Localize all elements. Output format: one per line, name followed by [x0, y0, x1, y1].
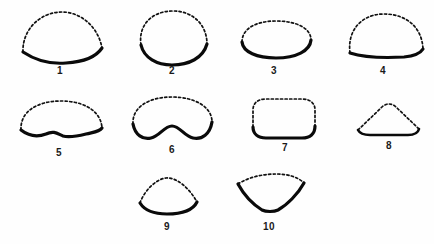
- figure-4: [344, 10, 428, 62]
- figure-2-caption: 2: [146, 66, 198, 76]
- figure-5-solid-edge: [21, 128, 102, 137]
- figure-7-solid-edge: [253, 126, 315, 138]
- figure-9-dashed-edge: [140, 178, 197, 203]
- figure-6: [127, 93, 219, 145]
- figure-7-dashed-edge: [253, 99, 315, 127]
- figure-4-solid-edge: [350, 49, 423, 58]
- figure-10-solid-edge: [238, 183, 304, 212]
- figure-9-caption: 9: [141, 222, 193, 232]
- figure-8-dashed-edge: [358, 104, 419, 130]
- figure-7-caption: 7: [259, 143, 311, 153]
- figure-8: [352, 100, 426, 140]
- figure-6-solid-edge: [133, 122, 212, 138]
- figure-plate: 1 2 3 4 5 6: [0, 0, 434, 244]
- figure-10: [232, 172, 310, 218]
- figure-10-caption: 10: [243, 222, 295, 232]
- figure-4-dashed-edge: [350, 14, 423, 53]
- figure-9: [134, 174, 204, 218]
- figure-9-solid-edge: [140, 202, 197, 214]
- figure-7: [248, 96, 322, 142]
- figure-8-caption: 8: [363, 141, 415, 151]
- figure-5-caption: 5: [33, 148, 85, 158]
- figure-4-caption: 4: [357, 66, 409, 76]
- figure-3-dashed-edge: [242, 21, 311, 42]
- figure-1-solid-edge: [23, 48, 102, 63]
- figure-1-dashed-edge: [23, 12, 102, 52]
- figure-6-dashed-edge: [133, 97, 212, 124]
- figure-1: [14, 8, 110, 66]
- figure-10-dashed-edge: [238, 174, 304, 184]
- figure-5: [16, 97, 108, 143]
- figure-3-caption: 3: [248, 66, 300, 76]
- figure-3: [238, 18, 316, 62]
- figure-8-solid-edge: [358, 129, 419, 135]
- figure-2: [133, 8, 215, 68]
- figure-2-dashed-edge: [141, 11, 207, 45]
- figure-6-caption: 6: [146, 145, 198, 155]
- figure-3-solid-edge: [242, 40, 311, 58]
- figure-2-solid-edge: [141, 44, 207, 65]
- figure-5-dashed-edge: [21, 101, 102, 130]
- figure-1-caption: 1: [34, 66, 86, 76]
